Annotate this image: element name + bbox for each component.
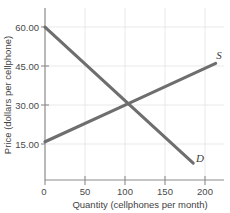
- x-axis-title: Quantity (cellphones per month): [72, 199, 207, 210]
- y-tick-label-15: 15.00: [15, 139, 39, 150]
- supply-demand-chart: 60.00 45.00 30.00 15.00 0 50 100 150 200…: [0, 0, 230, 213]
- horizontal-gridlines: [45, 27, 224, 144]
- y-tick-label-30: 30.00: [15, 100, 39, 111]
- demand-curve-label: D: [195, 152, 204, 164]
- x-tick-label-50: 50: [80, 186, 91, 197]
- x-tick-label-0: 0: [41, 186, 46, 197]
- x-tick-label-100: 100: [117, 186, 133, 197]
- supply-curve: [45, 63, 216, 141]
- x-tick-label-150: 150: [157, 186, 173, 197]
- y-axis-tick-labels: 60.00 45.00 30.00 15.00: [15, 22, 39, 150]
- supply-curve-label: S: [216, 49, 222, 61]
- demand-curve: [45, 27, 193, 163]
- x-tick-label-200: 200: [197, 186, 213, 197]
- vertical-gridlines: [85, 8, 205, 180]
- y-tick-label-45: 45.00: [15, 61, 39, 72]
- y-axis-title: Price (dollars per cellphone): [2, 36, 13, 154]
- x-axis-tick-labels: 0 50 100 150 200: [41, 186, 213, 197]
- chart-canvas: 60.00 45.00 30.00 15.00 0 50 100 150 200…: [0, 0, 230, 213]
- y-tick-label-60: 60.00: [15, 22, 39, 33]
